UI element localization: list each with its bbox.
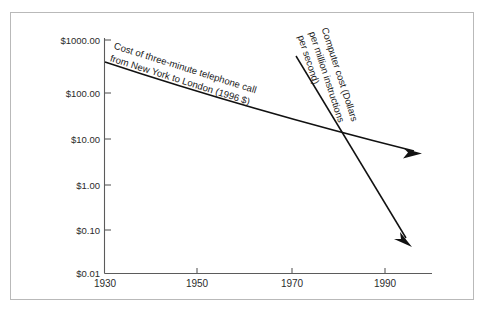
y-tick-label-1000: $1000.00 [42,35,100,46]
y-tick-label-0-10: $0.10 [42,225,100,236]
figure-container: $1000.00 $100.00 $10.00 $1.00 $0.10 $0.0… [0,0,484,311]
x-tick-label-1990: 1990 [374,278,396,289]
chart-plot-area [0,0,484,311]
x-tick-label-1930: 1930 [94,278,116,289]
x-tick-label-1970: 1970 [281,278,303,289]
y-tick-label-100: $100.00 [42,88,100,99]
y-tick-label-1: $1.00 [42,180,100,191]
y-tick-label-0-01: $0.01 [42,268,100,279]
x-tick-label-1950: 1950 [186,278,208,289]
y-tick-label-10: $10.00 [42,134,100,145]
